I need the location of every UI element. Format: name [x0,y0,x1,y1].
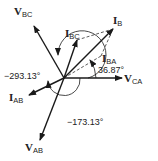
phasor-diagram: VBC IBC IB IBA VCA IAB VAB 36.87° −293.1… [0,0,158,161]
label-i-ba: IBA [102,52,116,66]
arc-173-13 [48,78,80,96]
label-v-ab: VAB [25,141,43,155]
label-v-bc: VBC [14,5,33,19]
angle-label-36-87: 36.87° [98,65,125,75]
angle-label-173-13: −173.13° [67,117,104,127]
label-i-ab: IAB [9,91,23,105]
label-v-ca: VCA [124,72,142,86]
angle-label-293-13: −293.13° [4,71,41,81]
label-i-bc: IBC [65,27,80,41]
label-i-b: IB [113,14,122,28]
